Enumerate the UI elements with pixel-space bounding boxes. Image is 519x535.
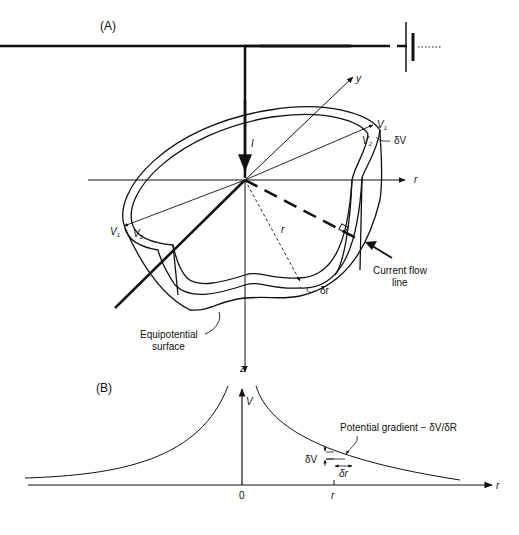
equipotential-label-1: Equipotential	[140, 329, 198, 340]
v2-right-label: V2	[362, 135, 373, 147]
delta-r-label-b: δr	[339, 468, 349, 479]
axes-3d	[88, 77, 405, 372]
r-axis-label: r	[414, 174, 418, 185]
potential-gradient-label: Potential gradient − δV/δR	[340, 422, 457, 433]
diagram-canvas: (A) y r z I	[0, 0, 519, 535]
delta-r-label: δr	[320, 285, 330, 296]
current-flow-line-label-2: line	[392, 277, 408, 288]
origin-label: 0	[239, 490, 245, 501]
r-axis-label-b: r	[496, 480, 500, 491]
r-tick-label: r	[331, 490, 335, 501]
equipotential-label-2: surface	[152, 341, 185, 352]
delta-v-label-b: δV	[305, 454, 318, 465]
electrode-circuit	[0, 22, 441, 178]
v1-left-label: V1	[110, 226, 120, 238]
v1-right-label: V1	[377, 119, 387, 131]
radius-label: r	[281, 224, 285, 235]
panel-a-label: (A)	[100, 19, 116, 33]
v2-left-label: V2	[133, 228, 144, 240]
v-axis-label: V	[246, 396, 254, 407]
y-axis-label: y	[355, 73, 362, 84]
current-flow-line-label-1: Current flow	[373, 265, 428, 276]
radial-vectors	[124, 125, 373, 281]
potential-plot	[25, 386, 492, 485]
battery-icon	[406, 22, 441, 72]
delta-v-label: δV	[394, 135, 407, 146]
panel-b-label: (B)	[96, 381, 112, 395]
current-label: I	[251, 138, 254, 149]
z-axis-label: z	[239, 363, 245, 374]
